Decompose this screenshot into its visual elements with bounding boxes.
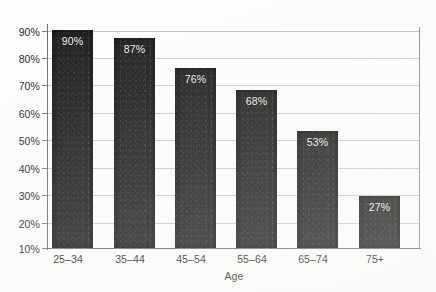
bar-age-35-44[interactable]: 87% <box>114 38 155 248</box>
y-tick-label: 60% <box>0 108 40 120</box>
bar-value-label: 90% <box>52 35 93 47</box>
gridline-70 <box>48 85 419 86</box>
bar-age-75-plus[interactable]: 27% <box>359 196 400 248</box>
gridline-60 <box>48 113 419 114</box>
plot-area: 90% 87% 76% 68% 53% 27% <box>48 27 420 248</box>
x-axis-line <box>48 248 421 249</box>
gridline-90 <box>48 31 419 32</box>
bar-value-label: 27% <box>359 201 400 213</box>
bar-chart: 90% 80% 70% 60% 50% 40% 30% 20% 10% 90% … <box>0 0 436 292</box>
bar-value-label: 53% <box>297 136 338 148</box>
bar-age-45-54[interactable]: 76% <box>175 68 216 248</box>
y-tick-label: 70% <box>0 80 40 92</box>
x-tick-label-75-plus: 75+ <box>339 253 411 265</box>
bar-age-65-74[interactable]: 53% <box>297 131 338 248</box>
y-tick-label: 20% <box>0 218 40 230</box>
bar-value-label: 87% <box>114 43 155 55</box>
y-tick-label: 40% <box>0 163 40 175</box>
y-tick-label: 50% <box>0 135 40 147</box>
y-tick-label: 80% <box>0 53 40 65</box>
gridline-50 <box>48 140 419 141</box>
bar-value-label: 76% <box>175 73 216 85</box>
gridline-40 <box>48 168 419 169</box>
y-tick-label: 90% <box>0 26 40 38</box>
y-tick-label: 30% <box>0 190 40 202</box>
x-axis-title: Age <box>48 270 420 282</box>
bar-age-25-34[interactable]: 90% <box>52 30 93 248</box>
bar-age-55-64[interactable]: 68% <box>236 90 277 248</box>
bar-value-label: 68% <box>236 95 277 107</box>
gridline-80 <box>48 58 419 59</box>
y-axis-tick-labels: 90% 80% 70% 60% 50% 40% 30% 20% 10% <box>0 0 40 292</box>
